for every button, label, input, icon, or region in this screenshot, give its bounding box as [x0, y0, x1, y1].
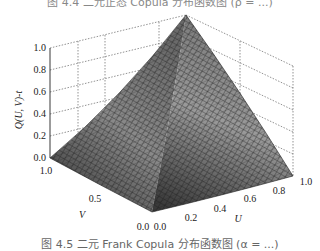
v-axis-label: V: [79, 209, 87, 220]
v-tick: 0.0: [137, 221, 150, 232]
u-tick: 0.0: [154, 221, 167, 232]
z-axis-label: Q(U, V)-t: [13, 91, 25, 130]
v-tick: 0.5: [89, 193, 102, 204]
z-tick: 0.2: [34, 130, 47, 141]
u-tick: 0.2: [185, 212, 198, 223]
z-tick: 0.4: [34, 108, 47, 119]
bottom-caption: 图 4.5 二元 Frank Copula 分布函数图 (α = ...): [0, 235, 320, 251]
top-caption: 图 4.4 二元正态 Copula 分布函数图 (ρ = ...): [0, 0, 320, 9]
z-tick: 1.0: [34, 42, 47, 53]
u-tick: 0.6: [244, 193, 257, 204]
u-tick: 0.4: [214, 203, 227, 214]
z-tick: 0.0: [34, 152, 47, 163]
u-tick: 0.8: [273, 185, 286, 196]
v-tick: 1.0: [40, 165, 53, 176]
copula-surface: [50, 15, 293, 212]
z-axis-ticks: 0.0 0.2 0.4 0.6 0.8 1.0: [34, 42, 47, 163]
u-tick: 1.0: [300, 176, 313, 187]
z-tick: 0.6: [34, 86, 47, 97]
z-tick: 0.8: [34, 64, 47, 75]
u-axis-label: U: [234, 213, 242, 224]
